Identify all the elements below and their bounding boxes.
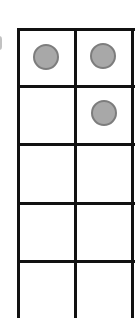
- grid-line-row-3: [17, 202, 135, 205]
- grid-line-row-0: [17, 28, 135, 31]
- grid-line-row-2: [17, 143, 135, 146]
- counter-r0-c1: [90, 43, 116, 69]
- grid-line-right: [131, 28, 134, 318]
- counter-r0-c0: [33, 44, 59, 70]
- grid-line-left: [17, 28, 20, 318]
- ten-frame-grid: [17, 28, 135, 318]
- grid-line-row-1: [17, 85, 135, 88]
- grid-line-middle: [74, 28, 77, 318]
- counter-r1-c1: [91, 100, 117, 126]
- cropped-edge-mark: [0, 36, 2, 50]
- grid-line-row-4: [17, 260, 135, 263]
